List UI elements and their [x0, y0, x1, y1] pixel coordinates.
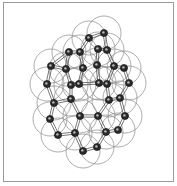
atom-highlight [104, 130, 106, 132]
atom-highlight [81, 66, 83, 68]
atom-highlight [64, 67, 66, 69]
atom-highlight [105, 82, 107, 84]
atom-highlight [105, 48, 107, 50]
atom-highlight [107, 98, 109, 100]
atom-highlight [45, 82, 47, 84]
atom-highlight [78, 50, 80, 52]
atom-highlight [122, 66, 124, 68]
atom-highlight [73, 131, 75, 133]
atom-highlight [56, 133, 58, 135]
atom-highlight [78, 114, 80, 116]
atom-highlight [102, 31, 104, 33]
atom-highlight [96, 47, 98, 49]
atom-highlight [52, 101, 54, 103]
atom-highlight [81, 149, 83, 151]
molecule-diagram [0, 0, 177, 186]
atom-highlight [95, 145, 97, 147]
atoms [43, 29, 132, 154]
atom-highlight [116, 128, 118, 130]
atom-highlight [127, 81, 129, 83]
atom-highlight [118, 96, 120, 98]
atom-highlight [69, 83, 71, 85]
atom-highlight [123, 114, 125, 116]
atom-highlight [96, 114, 98, 116]
atom-highlight [48, 117, 50, 119]
atom-highlight [49, 64, 51, 66]
atom-highlight [95, 63, 97, 65]
atom-highlight [97, 81, 99, 83]
atom-highlight [87, 36, 89, 38]
atom-highlight [77, 82, 79, 84]
atom-highlight [69, 97, 71, 99]
atom-highlight [112, 64, 114, 66]
atom-highlight [67, 50, 69, 52]
